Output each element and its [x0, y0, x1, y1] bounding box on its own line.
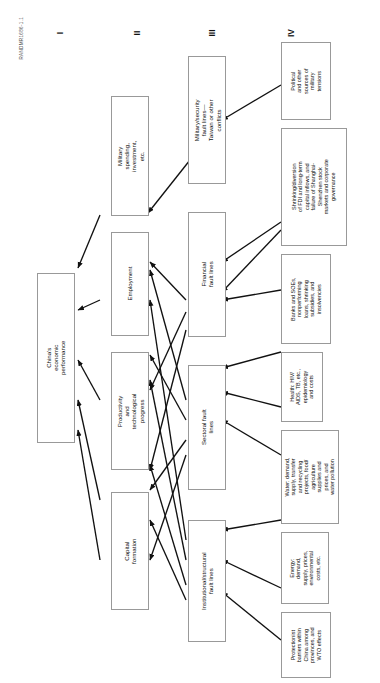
box-military-security-fault-lines[interactable]: Military/security fault lines— Taiwan or…: [188, 56, 226, 184]
box-banks-soes[interactable]: Banks and SOEs, nonperforming loans, shr…: [281, 254, 331, 344]
box-label: Institutional/structural fault lines: [200, 552, 214, 610]
box-label: Military/security fault lines— Taiwan or…: [193, 99, 222, 141]
box-fdi-capital-inflows[interactable]: Shrinking/diversion of FDI and long-term…: [281, 128, 347, 246]
box-label: Capital formation: [123, 533, 137, 569]
box-label: Sectoral fault lines: [200, 410, 214, 446]
box-health-hiv-aids[interactable]: Health: HIV/ AIDS, TB, etc., epidemiolog…: [281, 352, 323, 422]
box-china-economic-performance[interactable]: China's economic performance: [37, 273, 75, 443]
box-label: Shrinking/diversion of FDI and long-term…: [291, 155, 336, 219]
box-productivity-technological-progress[interactable]: Productivity and technological progress: [111, 352, 149, 470]
box-label: Energy: demand, supply, prices, environm…: [289, 545, 321, 591]
box-label: Military spending, investment, etc.: [116, 138, 145, 174]
box-political-military-tensions[interactable]: Political and other sources of military …: [281, 42, 331, 120]
box-label: Employment: [126, 266, 133, 302]
box-label: Banks and SOEs, nonperforming loans, shr…: [290, 275, 322, 323]
box-label: Water: demand, supply, transfer and recy…: [284, 449, 336, 505]
box-label: Political and other sources of military …: [290, 57, 322, 105]
box-protectionist-barriers[interactable]: Protectionist barriers within China amon…: [281, 612, 331, 678]
box-label: Financial fault lines: [200, 257, 214, 293]
box-label: Productivity and technological progress: [116, 393, 145, 429]
box-label: Protectionist barriers within China amon…: [290, 621, 322, 669]
box-military-spending[interactable]: Military spending, investment, etc.: [111, 96, 149, 216]
box-energy-demand-supply[interactable]: Energy: demand, supply, prices, environm…: [281, 532, 329, 604]
figure-canvas: RANDMR1686-1.1 I II III IV: [0, 0, 380, 683]
box-water-demand-supply[interactable]: Water: demand, supply, transfer and recy…: [281, 430, 339, 524]
box-institutional-structural-fault-lines[interactable]: Institutional/structural fault lines: [188, 520, 226, 642]
box-label: Health: HIV/ AIDS, TB, etc., epidemiolog…: [289, 367, 315, 407]
box-sectoral-fault-lines[interactable]: Sectoral fault lines: [188, 365, 226, 490]
box-financial-fault-lines[interactable]: Financial fault lines: [188, 212, 226, 337]
box-employment[interactable]: Employment: [111, 232, 149, 336]
box-label: China's economic performance: [45, 340, 67, 376]
box-capital-formation[interactable]: Capital formation: [111, 492, 149, 610]
